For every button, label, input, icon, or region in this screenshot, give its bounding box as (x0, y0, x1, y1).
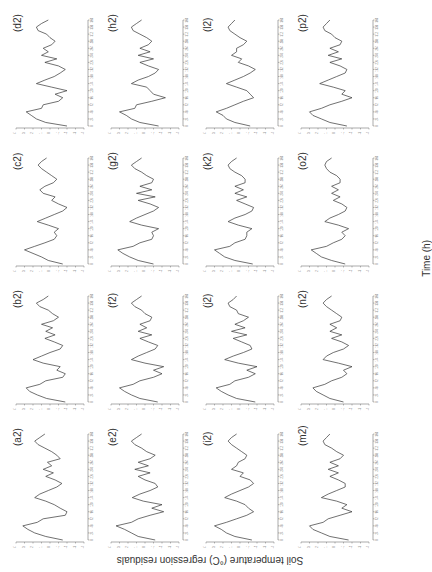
time-tick-label: 336 (90, 162, 94, 167)
time-tick-label: 120 (375, 88, 379, 93)
time-tick-label: 0 (185, 539, 189, 541)
residual-tick-label: 1 (324, 270, 328, 272)
time-tick-label: 216 (280, 474, 284, 479)
residual-tick-label: -2 (159, 269, 163, 272)
time-tick-label: 312 (90, 169, 94, 174)
residual-tick-label: -3 (168, 131, 172, 134)
time-tick-label: 144 (90, 495, 94, 500)
residual-tick-label: 0 (142, 270, 146, 272)
residual-tick-label: 3 (307, 270, 311, 272)
panel-label: (p2) (297, 14, 308, 32)
time-tick-label: 264 (90, 46, 94, 51)
residual-tick-label: 0 (332, 132, 336, 134)
time-tick-label: 144 (185, 219, 189, 224)
residual-tick-label: 1 (324, 132, 328, 134)
time-tick-label: 120 (90, 364, 94, 369)
residual-series-line (216, 20, 255, 126)
time-tick-label: 72 (280, 103, 284, 106)
residual-tick-label: 2 (30, 408, 34, 410)
residual-tick-label: 3 (117, 408, 121, 410)
time-tick-label: 96 (375, 234, 379, 237)
residual-tick-label: 1 (134, 546, 138, 548)
time-tick-label: 168 (90, 74, 94, 79)
time-tick-label: 192 (375, 481, 379, 486)
time-tick-label: 120 (90, 88, 94, 93)
time-tick-label: 168 (375, 74, 379, 79)
time-tick-label: 24 (375, 393, 379, 396)
panel-f2: -4-3-2-101234024487296120144168192216240… (103, 284, 199, 414)
residual-tick-label: 1 (229, 270, 233, 272)
time-tick-label: 336 (185, 300, 189, 305)
time-tick-label: 192 (280, 343, 284, 348)
time-tick-label: 216 (185, 336, 189, 341)
residual-series-line (310, 434, 353, 540)
time-tick-label: 240 (280, 53, 284, 58)
time-tick-label: 264 (280, 184, 284, 189)
time-tick-label: 72 (185, 379, 189, 382)
time-tick-label: 216 (90, 60, 94, 65)
residual-tick-label: 3 (212, 408, 216, 410)
time-tick-label: 120 (90, 226, 94, 231)
time-tick-label: 24 (90, 255, 94, 258)
time-tick-label: 144 (375, 495, 379, 500)
time-tick-label: 168 (280, 350, 284, 355)
time-tick-label: 24 (375, 531, 379, 534)
residual-tick-label: -2 (254, 407, 258, 410)
residual-tick-label: -4 (366, 269, 370, 272)
time-tick-label: 336 (280, 300, 284, 305)
time-tick-label: 336 (280, 24, 284, 29)
residual-series-line (215, 434, 254, 540)
residual-tick-label: 1 (134, 132, 138, 134)
panel-label: (o2) (297, 152, 308, 170)
time-tick-label: 96 (185, 234, 189, 237)
time-tick-label: 120 (185, 88, 189, 93)
time-tick-label: 288 (375, 314, 379, 319)
residual-tick-label: -4 (271, 545, 275, 548)
time-tick-label: 336 (90, 24, 94, 29)
residual-tick-label: -1 (151, 407, 155, 410)
residual-tick-label: -4 (271, 269, 275, 272)
time-tick-label: 360 (280, 293, 284, 298)
time-tick-label: 216 (375, 474, 379, 479)
time-tick-label: 0 (185, 401, 189, 403)
time-tick-label: 192 (90, 481, 94, 486)
time-tick-label: 216 (90, 198, 94, 203)
residual-tick-label: 3 (212, 132, 216, 134)
time-tick-label: 48 (185, 110, 189, 113)
panel-m2: -4-3-2-101234024487296120144168192216240… (293, 422, 389, 552)
residual-tick-label: -1 (246, 545, 250, 548)
time-tick-label: 240 (185, 53, 189, 58)
x-axis-title: Time (h) (421, 240, 432, 277)
residual-tick-label: 1 (229, 546, 233, 548)
panel-label: (d2) (12, 14, 23, 32)
panel-i2: -4-3-2-101234024487296120144168192216240… (198, 422, 294, 552)
time-tick-label: 0 (90, 539, 94, 541)
residual-tick-label: 3 (117, 546, 121, 548)
time-tick-label: 144 (90, 81, 94, 86)
time-tick-label: 240 (90, 53, 94, 58)
time-tick-label: 24 (90, 531, 94, 534)
residual-tick-label: 3 (22, 270, 26, 272)
time-tick-label: 288 (280, 176, 284, 181)
time-tick-label: 360 (280, 155, 284, 160)
time-tick-label: 48 (185, 248, 189, 251)
time-tick-label: 192 (185, 343, 189, 348)
residual-tick-label: 4 (203, 408, 207, 410)
time-tick-label: 312 (375, 31, 379, 36)
time-tick-label: 192 (375, 67, 379, 72)
time-tick-label: 72 (280, 379, 284, 382)
residual-tick-label: -2 (64, 407, 68, 410)
residual-tick-label: -1 (151, 131, 155, 134)
time-tick-label: 120 (185, 226, 189, 231)
time-tick-label: 48 (90, 248, 94, 251)
residual-tick-label: 1 (229, 132, 233, 134)
time-tick-label: 0 (185, 125, 189, 127)
time-tick-label: 288 (280, 452, 284, 457)
time-tick-label: 360 (90, 293, 94, 298)
time-tick-label: 144 (90, 357, 94, 362)
time-tick-label: 288 (185, 176, 189, 181)
time-tick-label: 216 (90, 474, 94, 479)
panel-n2: -4-3-2-101234024487296120144168192216240… (293, 284, 389, 414)
residual-series-line (23, 434, 67, 540)
residual-tick-label: 2 (220, 270, 224, 272)
